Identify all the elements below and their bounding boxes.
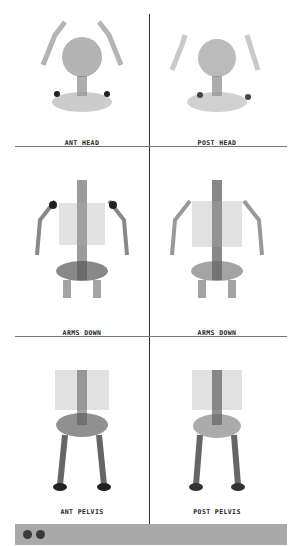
scan-ant-head <box>15 0 149 130</box>
scan-ant-pelvis <box>15 370 149 500</box>
label-post-arms-down: ARMS DOWN <box>150 329 284 337</box>
indicator-dot-icon <box>36 530 45 539</box>
scan-post-pelvis <box>150 370 284 500</box>
indicator-dot-icon <box>23 530 32 539</box>
scan-ant-arms-down <box>15 175 149 305</box>
label-post-pelvis: POST PELVIS <box>150 508 284 516</box>
label-post-head: POST HEAD <box>150 139 284 147</box>
label-ant-arms-down: ARMS DOWN <box>15 329 149 337</box>
scan-post-head <box>150 0 284 130</box>
label-ant-pelvis: ANT PELVIS <box>15 508 149 516</box>
label-ant-head: ANT HEAD <box>15 139 149 147</box>
footer-bar <box>15 524 287 545</box>
scan-post-arms-down <box>150 175 284 305</box>
